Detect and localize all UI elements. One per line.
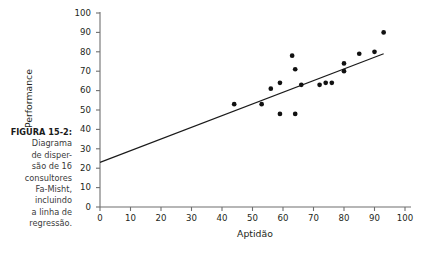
figure-container: FIGURA 15-2: Diagrama de disper- são de … <box>0 0 426 258</box>
data-point <box>323 80 328 85</box>
x-tick-label: 70 <box>301 214 327 223</box>
y-tick-label: 30 <box>65 145 91 154</box>
x-tick-label: 20 <box>148 214 174 223</box>
x-tick-label: 50 <box>240 214 266 223</box>
data-point <box>268 86 273 91</box>
regression-line <box>100 54 384 163</box>
y-tick-label: 60 <box>65 86 91 95</box>
y-tick-label: 20 <box>65 164 91 173</box>
x-tick-label: 10 <box>118 214 144 223</box>
data-point <box>381 30 386 35</box>
axes <box>96 12 411 211</box>
data-point <box>290 53 295 58</box>
y-tick-label: 40 <box>65 125 91 134</box>
y-tick-label: 90 <box>65 28 91 37</box>
y-tick-label: 0 <box>65 203 91 212</box>
x-tick-label: 60 <box>270 214 296 223</box>
data-point <box>232 102 237 107</box>
x-tick-label: 0 <box>87 214 113 223</box>
scatter-plot: Performance Aptidão 01020304050607080901… <box>0 0 426 258</box>
x-tick-label: 40 <box>209 214 235 223</box>
x-tick-label: 80 <box>331 214 357 223</box>
data-point <box>293 67 298 72</box>
y-tick-label: 70 <box>65 67 91 76</box>
x-tick-label: 90 <box>362 214 388 223</box>
x-tick-label: 100 <box>392 214 418 223</box>
y-tick-label: 50 <box>65 106 91 115</box>
data-point <box>329 80 334 85</box>
data-point <box>317 82 322 87</box>
data-point <box>278 80 283 85</box>
y-tick-label: 10 <box>65 183 91 192</box>
data-point <box>357 51 362 56</box>
y-tick-label: 80 <box>65 48 91 57</box>
data-point <box>342 69 347 74</box>
data-point <box>278 112 283 117</box>
data-point <box>372 49 377 54</box>
x-tick-label: 30 <box>179 214 205 223</box>
data-point <box>293 112 298 117</box>
data-point <box>259 102 264 107</box>
data-point <box>299 82 304 87</box>
data-point <box>342 61 347 66</box>
y-tick-label: 100 <box>65 9 91 18</box>
